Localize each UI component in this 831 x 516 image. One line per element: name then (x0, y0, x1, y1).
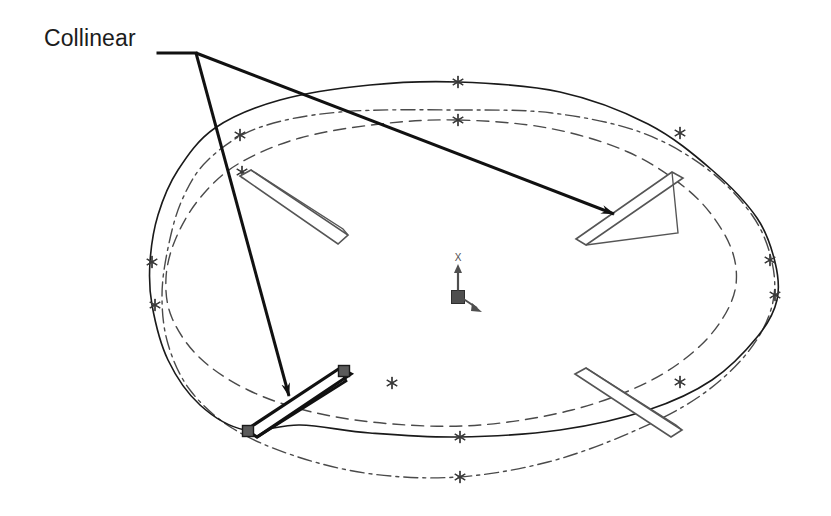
spline-control-point[interactable] (147, 257, 157, 268)
origin-axis-arrowhead (454, 264, 462, 273)
origin-marker[interactable] (452, 291, 465, 304)
cad-drawing-surface: X (0, 0, 831, 516)
plate-upper-right[interactable] (576, 172, 683, 245)
dash-dot-offset-curve[interactable] (162, 110, 775, 478)
leader-arrow-to-lower-left-plate (196, 53, 289, 396)
origin-triad: X (452, 252, 483, 312)
diagram-canvas: X Collinear (0, 0, 831, 516)
origin-axis-label: X (455, 252, 462, 263)
plate-lower-right[interactable] (575, 368, 682, 437)
spline-control-point[interactable] (387, 378, 397, 389)
collinear-label: Collinear (44, 27, 136, 50)
inner-dashed-curve[interactable] (166, 120, 737, 426)
origin-diagonal-arrowhead (471, 303, 482, 312)
dash-dot-offset-curve (162, 110, 775, 478)
plate-upper-left[interactable] (240, 170, 348, 244)
spline-control-point[interactable] (675, 128, 685, 139)
plate-lower-left-selected[interactable] (246, 368, 351, 437)
inner-dashed-curve (166, 120, 737, 426)
spline-control-points[interactable] (147, 77, 780, 483)
selection-handle[interactable] (243, 426, 254, 437)
collinear-leader-line (158, 53, 614, 396)
selection-handle[interactable] (339, 366, 350, 377)
spline-control-point[interactable] (675, 377, 685, 388)
